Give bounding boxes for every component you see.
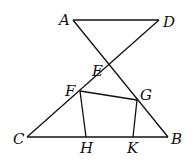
segment-fg <box>80 91 137 100</box>
label-f: F <box>64 82 76 100</box>
segment-gk <box>133 100 137 137</box>
label-h: H <box>79 139 94 157</box>
label-b: B <box>170 130 182 148</box>
label-c: C <box>13 130 25 148</box>
geometry-diagram: A D E F G C H K B <box>0 0 193 163</box>
label-d: D <box>162 13 175 31</box>
label-e: E <box>91 62 103 80</box>
label-a: A <box>57 11 70 29</box>
segment-fh <box>80 91 86 137</box>
segment-ab <box>73 20 168 137</box>
label-g: G <box>140 86 152 104</box>
label-k: K <box>126 139 139 157</box>
